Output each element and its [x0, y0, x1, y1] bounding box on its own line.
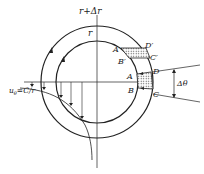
label-outer-radius: r+Δr — [79, 6, 102, 16]
vortex-flow-diagram: r+Δr r A′ B′ D′ C′ A B D C Δθ uθ=C/r — [0, 0, 204, 174]
element-original — [137, 72, 153, 89]
label-d-prime: D′ — [144, 41, 153, 50]
label-c: C — [153, 90, 159, 99]
velocity-arrowhead-icon — [42, 87, 46, 90]
label-d: D — [152, 67, 160, 76]
velocity-profile-curve — [20, 88, 92, 160]
label-c-prime: C′ — [150, 53, 158, 62]
label-inner-radius: r — [88, 28, 93, 38]
label-a-prime: A′ — [112, 45, 121, 54]
arrow-up-icon — [172, 69, 176, 73]
label-a: A — [126, 72, 133, 81]
label-b-prime: B′ — [117, 57, 126, 66]
label-delta-theta: Δθ — [176, 79, 188, 88]
label-velocity: uθ=C/r — [9, 86, 35, 96]
label-b: B — [127, 86, 134, 95]
ray-lower — [153, 94, 200, 102]
